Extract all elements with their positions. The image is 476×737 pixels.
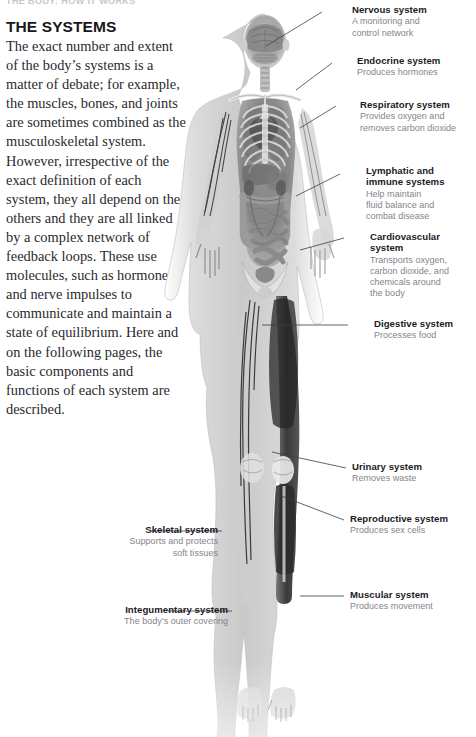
label-description: Supports and protectssoft tissues <box>36 536 218 558</box>
label-description: Produces hormones <box>357 67 475 78</box>
label-title: Respiratory system <box>360 99 476 110</box>
label-title: Lymphatic andimmune systems <box>366 165 474 188</box>
label-title: Reproductive system <box>350 513 468 524</box>
label-description: Produces sex cells <box>350 525 468 536</box>
label-urinary-system[interactable]: Urinary system Removes waste <box>352 461 462 485</box>
label-integumentary-system[interactable]: Integumentary system The body’s outer co… <box>26 604 228 628</box>
label-title: Digestive system <box>374 318 476 329</box>
label-description: A monitoring andcontrol network <box>352 16 474 38</box>
label-description: Transports oxygen,carbon dioxide, andche… <box>370 255 476 300</box>
label-muscular-system[interactable]: Muscular system Produces movement <box>350 589 466 613</box>
label-reproductive-system[interactable]: Reproductive system Produces sex cells <box>350 513 468 537</box>
label-title: Skeletal system <box>36 524 218 535</box>
label-respiratory-system[interactable]: Respiratory system Provides oxygen andre… <box>360 99 476 134</box>
label-description: Processes food <box>374 330 476 341</box>
label-description: Provides oxygen andremoves carbon dioxid… <box>360 111 476 133</box>
page-root: THE BODY: HOW IT WORKS THE SYSTEMS The e… <box>0 0 476 737</box>
label-description: Produces movement <box>350 601 466 612</box>
label-cardiovascular-system[interactable]: Cardiovascular system Transports oxygen,… <box>370 231 476 300</box>
label-title: Endocrine system <box>357 55 475 66</box>
label-title: Nervous system <box>352 4 474 15</box>
label-lymphatic-immune-systems[interactable]: Lymphatic andimmune systems Help maintai… <box>366 165 474 222</box>
label-endocrine-system[interactable]: Endocrine system Produces hormones <box>357 55 475 79</box>
label-title: Muscular system <box>350 589 466 600</box>
label-description: Removes waste <box>352 473 462 484</box>
label-description: The body’s outer covering <box>26 616 228 627</box>
running-header: THE BODY: HOW IT WORKS <box>6 0 136 6</box>
label-title: Urinary system <box>352 461 462 472</box>
label-nervous-system[interactable]: Nervous system A monitoring andcontrol n… <box>352 4 474 39</box>
label-skeletal-system[interactable]: Skeletal system Supports and protectssof… <box>36 524 218 559</box>
label-digestive-system[interactable]: Digestive system Processes food <box>374 318 476 342</box>
label-description: Help maintainfluid balance andcombat dis… <box>366 189 474 223</box>
page-title: THE SYSTEMS <box>6 18 116 36</box>
label-title: Cardiovascular system <box>370 231 476 254</box>
label-title: Integumentary system <box>26 604 228 615</box>
